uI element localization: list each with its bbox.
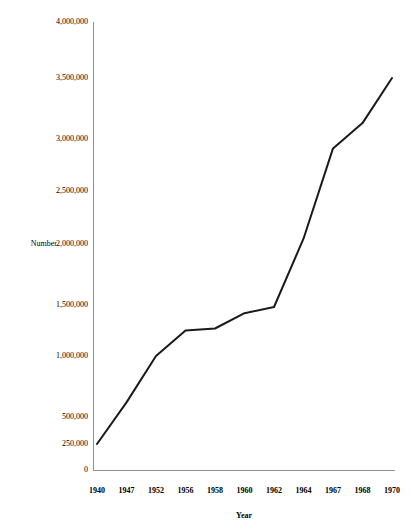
y-axis-title: Number bbox=[31, 239, 58, 248]
y-axis-tick-label: 4,000,000 bbox=[56, 17, 88, 26]
y-axis-tick-labels: 0250,000500,0001,000,0001,500,0002,000,0… bbox=[56, 17, 88, 474]
chart-canvas: 0250,000500,0001,000,0001,500,0002,000,0… bbox=[0, 0, 414, 529]
x-axis-tick-labels: 1940194719521956195819601962196419671968… bbox=[89, 486, 400, 495]
x-axis-tick-label: 1956 bbox=[178, 486, 194, 495]
y-axis-tick-label: 250,000 bbox=[62, 439, 88, 448]
x-axis-tick-label: 1962 bbox=[266, 486, 282, 495]
x-axis-tick-label: 1967 bbox=[325, 486, 341, 495]
series-line-number bbox=[97, 78, 392, 444]
y-axis-tick-label: 3,500,000 bbox=[56, 73, 88, 82]
x-axis-tick-label: 1952 bbox=[148, 486, 164, 495]
x-axis-tick-label: 1964 bbox=[296, 486, 312, 495]
y-axis-tick-label: 1,000,000 bbox=[56, 351, 88, 360]
x-axis-tick-label: 1947 bbox=[119, 486, 135, 495]
y-axis-tick-label: 2,000,000 bbox=[56, 239, 88, 248]
x-axis-tick-label: 1940 bbox=[89, 486, 105, 495]
y-axis-tick-label: 2,500,000 bbox=[56, 186, 88, 195]
y-axis-tick-label: 1,500,000 bbox=[56, 300, 88, 309]
x-axis-tick-label: 1968 bbox=[355, 486, 371, 495]
x-axis-tick-label: 1958 bbox=[207, 486, 223, 495]
y-axis-tick-label: 3,000,000 bbox=[56, 134, 88, 143]
y-axis-tick-label: 500,000 bbox=[62, 412, 88, 421]
x-axis-tick-label: 1970 bbox=[384, 486, 400, 495]
x-axis-tick-label: 1960 bbox=[237, 486, 253, 495]
x-axis-title: Year bbox=[236, 511, 252, 520]
y-axis-tick-label: 0 bbox=[84, 465, 88, 474]
line-chart: 0250,000500,0001,000,0001,500,0002,000,0… bbox=[0, 0, 414, 529]
